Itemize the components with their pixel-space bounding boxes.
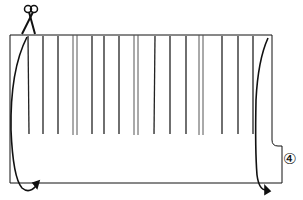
slits [28, 36, 253, 134]
step-number-label: ④ [283, 150, 296, 168]
scissors-icon [22, 6, 38, 35]
fabric-diagram [0, 0, 303, 200]
left-fold-arrow [11, 37, 39, 191]
fabric-outline [10, 35, 282, 183]
right-fold-arrow [256, 38, 270, 194]
